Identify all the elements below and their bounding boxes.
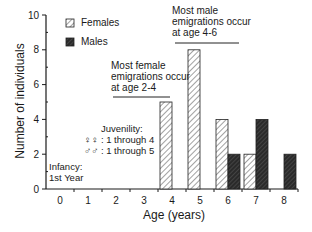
male-emigration-annotation: Most male emigrations occur at age 4-6 xyxy=(172,5,252,43)
infancy-annotation: Infancy: 1st Year xyxy=(49,161,83,183)
svg-text:at age 4-6: at age 4-6 xyxy=(172,27,217,38)
y-axis: 0246810 xyxy=(28,10,48,195)
x-tick-label: 1 xyxy=(85,195,91,206)
svg-text:Juvenility:: Juvenility: xyxy=(101,123,143,134)
x-tick-label: 5 xyxy=(197,195,203,206)
svg-text:♂♂ : 1 through 5: ♂♂ : 1 through 5 xyxy=(84,145,154,156)
y-tick-label: 10 xyxy=(28,10,40,21)
male-bar xyxy=(284,154,296,189)
x-tick-label: 3 xyxy=(141,195,147,206)
svg-text:Most female: Most female xyxy=(111,60,166,71)
svg-text:♀♀ : 1 through 4: ♀♀ : 1 through 4 xyxy=(84,134,154,145)
svg-text:at age 2-4: at age 2-4 xyxy=(111,82,156,93)
y-tick-label: 4 xyxy=(33,114,39,125)
x-tick-label: 2 xyxy=(113,195,119,206)
x-tick-label: 8 xyxy=(281,195,287,206)
legend-male-label: Males xyxy=(81,36,108,47)
male-bar xyxy=(256,119,268,189)
y-tick-label: 2 xyxy=(33,149,39,160)
female-bar xyxy=(216,119,228,189)
legend-female-label: Females xyxy=(81,17,119,28)
x-tick-label: 0 xyxy=(57,195,63,206)
legend: Females Males xyxy=(66,17,119,47)
y-axis-label: Number of individuals xyxy=(13,43,27,158)
female-bar xyxy=(244,154,256,189)
svg-text:Most male: Most male xyxy=(172,5,219,16)
svg-text:Infancy:: Infancy: xyxy=(49,161,82,172)
male-bar xyxy=(228,154,240,189)
female-emigration-annotation: Most female emigrations occur at age 2-4 xyxy=(111,60,191,97)
svg-text:1st Year: 1st Year xyxy=(49,172,83,183)
x-tick-label: 7 xyxy=(253,195,259,206)
legend-female-swatch xyxy=(66,19,74,27)
x-axis-label: Age (years) xyxy=(143,208,205,222)
x-tick-label: 6 xyxy=(225,195,231,206)
svg-text:emigrations occur: emigrations occur xyxy=(111,71,191,82)
x-tick-label: 4 xyxy=(169,195,175,206)
legend-male-swatch xyxy=(66,38,74,46)
bar-chart: 0246810 012345678 Number of individuals … xyxy=(0,0,312,232)
x-axis: 012345678 xyxy=(46,189,298,206)
female-bar xyxy=(160,102,172,189)
svg-text:emigrations occur: emigrations occur xyxy=(172,16,252,27)
y-tick-label: 8 xyxy=(33,44,39,55)
y-tick-label: 6 xyxy=(33,79,39,90)
juvenility-annotation: Juvenility: ♀♀ : 1 through 4 ♂♂ : 1 thro… xyxy=(84,123,154,156)
y-tick-label: 0 xyxy=(33,184,39,195)
